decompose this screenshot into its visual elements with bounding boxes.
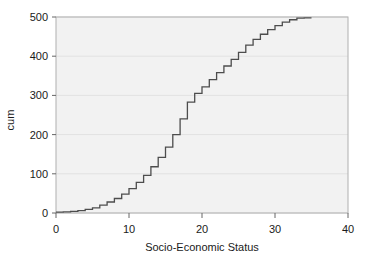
x-tick-label-20: 20 [196,223,208,235]
chart-figure: 0100200300400500 010203040 Socio-Economi… [0,0,366,267]
y-tick-label-0: 0 [42,207,48,219]
y-tick-label-400: 400 [30,50,48,62]
y-tick-label-100: 100 [30,168,48,180]
y-tick-label-500: 500 [30,11,48,23]
x-tick-label-10: 10 [123,223,135,235]
x-tick-label-30: 30 [269,223,281,235]
y-axis-title: cum [4,110,16,131]
plot-area-background [56,17,348,213]
x-axis-title: Socio-Economic Status [145,241,259,253]
y-tick-label-200: 200 [30,129,48,141]
x-tick-label-0: 0 [53,223,59,235]
cumulative-step-plot: 0100200300400500 010203040 Socio-Economi… [0,0,366,267]
x-tick-label-40: 40 [342,223,354,235]
y-tick-label-300: 300 [30,89,48,101]
